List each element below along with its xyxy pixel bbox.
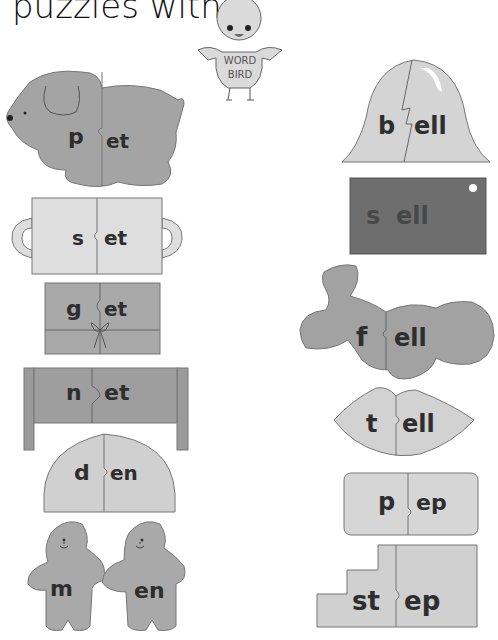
puzzle-sell-first: s xyxy=(366,202,380,230)
puzzle-step-rest: ep xyxy=(404,586,440,616)
puzzle-pet-first: p xyxy=(68,124,84,149)
puzzle-get-first: g xyxy=(66,296,82,321)
puzzle-net-first: n xyxy=(66,380,82,405)
puzzle-den: d en xyxy=(44,434,175,512)
puzzle-pet: p et xyxy=(7,71,184,186)
puzzle-den-rest: en xyxy=(110,461,138,485)
puzzle-fell-first: f xyxy=(356,322,368,352)
puzzle-men-first: m xyxy=(50,576,73,601)
puzzle-set-first: s xyxy=(72,226,84,250)
puzzle-get-rest: et xyxy=(104,297,128,321)
puzzle-bell-first: b xyxy=(378,112,395,140)
puzzle-step-first: st xyxy=(352,586,380,616)
puzzle-fell-rest: ell xyxy=(394,324,427,352)
puzzle-tell: t ell xyxy=(334,388,474,456)
puzzle-net-rest: et xyxy=(104,380,130,405)
puzzle-den-first: d xyxy=(74,460,90,485)
mascot-line2: BIRD xyxy=(228,69,253,80)
puzzle-bell-rest: ell xyxy=(414,112,447,140)
puzzle-men: m en xyxy=(28,522,185,631)
puzzle-pep: p ep xyxy=(344,473,478,535)
puzzle-men-rest: en xyxy=(134,578,165,603)
puzzle-set-rest: et xyxy=(104,226,128,250)
puzzle-fell: f ell xyxy=(300,265,494,379)
puzzle-tell-rest: ell xyxy=(402,410,435,438)
puzzle-tell-first: t xyxy=(366,410,377,438)
puzzle-set: s et xyxy=(12,198,182,274)
puzzle-sell: s ell xyxy=(350,178,486,254)
puzzle-bell: b ell xyxy=(342,60,490,162)
puzzle-step: st ep xyxy=(317,545,477,627)
puzzle-sell-rest: ell xyxy=(396,202,429,230)
puzzle-pep-rest: ep xyxy=(416,490,447,515)
word-bird-mascot: WORD BIRD xyxy=(198,0,282,100)
mascot-line1: WORD xyxy=(224,55,257,66)
puzzle-pep-first: p xyxy=(378,488,395,516)
puzzle-get: g et xyxy=(45,283,160,354)
puzzle-pet-rest: et xyxy=(106,129,130,153)
